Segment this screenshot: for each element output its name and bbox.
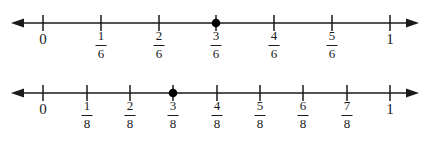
numerator: 4 [269,29,280,44]
numerator: 2 [154,29,165,44]
denominator: 8 [82,117,93,132]
left-arrow-icon [11,19,24,28]
numerator: 1 [96,29,107,44]
tick-label-6-8: 6 8 [298,99,309,132]
numerator: 1 [82,99,93,114]
denominator: 6 [154,47,165,62]
number-lines-figure: 0 1 6 2 6 3 6 4 6 5 6 1 [0,0,429,145]
denominator: 8 [125,117,136,132]
marked-point-dot [212,19,221,28]
tick-label-1: 1 [386,32,394,47]
numerator: 3 [211,29,222,44]
tick-label-1-8: 1 8 [82,99,93,132]
tick-label-4-6: 4 6 [269,29,280,62]
numerator: 4 [212,99,223,114]
tick-label-5-6: 5 6 [327,29,338,62]
tick-label-2-6: 2 6 [154,29,165,62]
tick-label-7-8: 7 8 [342,99,353,132]
number-line-sixths: 0 1 6 2 6 3 6 4 6 5 6 1 [0,0,429,72]
number-line-eighths: 0 1 8 2 8 3 8 4 8 5 8 6 8 [0,70,429,142]
numerator: 6 [298,99,309,114]
left-arrow-icon [11,89,24,98]
numerator: 2 [125,99,136,114]
right-arrow-icon [406,19,419,28]
denominator: 6 [327,47,338,62]
numerator: 5 [255,99,266,114]
marked-point-dot [169,89,178,98]
tick-label-2-8: 2 8 [125,99,136,132]
denominator: 6 [96,47,107,62]
tick-label-3-6: 3 6 [211,29,222,62]
tick-label-0: 0 [39,102,47,117]
tick-label-5-8: 5 8 [255,99,266,132]
tick-label-0: 0 [39,32,47,47]
denominator: 6 [269,47,280,62]
tick-label-4-8: 4 8 [212,99,223,132]
tick-label-1: 1 [386,102,394,117]
tick-label-3-8: 3 8 [168,99,179,132]
denominator: 8 [255,117,266,132]
denominator: 8 [212,117,223,132]
denominator: 8 [168,117,179,132]
denominator: 8 [342,117,353,132]
denominator: 8 [298,117,309,132]
denominator: 6 [211,47,222,62]
tick-label-1-6: 1 6 [96,29,107,62]
numerator: 7 [342,99,353,114]
numerator: 5 [327,29,338,44]
right-arrow-icon [406,89,419,98]
numerator: 3 [168,99,179,114]
